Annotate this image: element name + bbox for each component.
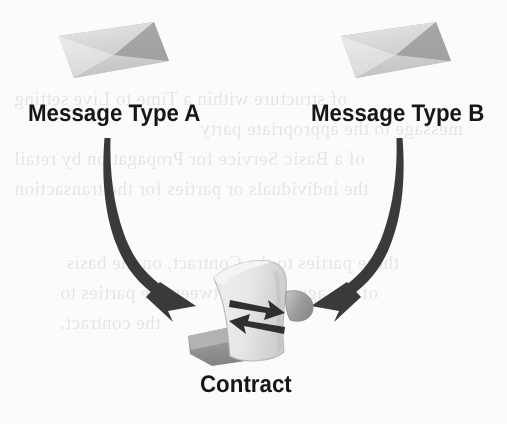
diagram-layer: Message Type A Message Type B xyxy=(0,0,507,424)
scroll-exchange-icon-contract xyxy=(186,256,320,368)
label-contract: Contract xyxy=(200,371,292,399)
figure-canvas: of structure within a Time to Live setti… xyxy=(0,0,507,424)
